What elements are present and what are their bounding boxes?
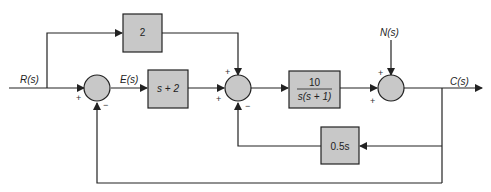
sum3-top-plus-sign: + — [378, 68, 383, 78]
block-controller-label: s + 2 — [157, 83, 179, 94]
sum3-left-plus-sign: + — [370, 96, 375, 106]
summing-junction-1 — [84, 75, 110, 101]
sum1-plus-sign: + — [76, 93, 81, 103]
sum2-left-plus-sign: + — [216, 94, 221, 104]
sum1-minus-sign: − — [103, 100, 108, 110]
summing-junction-3 — [378, 75, 404, 101]
summing-junction-2 — [225, 75, 251, 101]
block-feedforward-label: 2 — [140, 27, 146, 38]
rate-feedback-out-line — [238, 103, 321, 146]
block-rate-feedback-label: 0.5s — [331, 141, 350, 152]
sum2-minus-sign: − — [245, 101, 250, 111]
disturbance-signal-label: N(s) — [380, 27, 399, 38]
error-signal-label: E(s) — [120, 74, 138, 85]
block-plant-denominator: s(s + 1) — [298, 91, 332, 102]
feedforward-line — [47, 33, 122, 88]
block-diagram: 2 s + 2 10 s(s + 1) 0.5s R(s) E(s) N(s) … — [0, 0, 491, 192]
block-plant-numerator: 10 — [309, 77, 321, 88]
input-signal-label: R(s) — [20, 74, 39, 85]
output-signal-label: C(s) — [450, 76, 469, 87]
sum2-top-plus-sign: + — [225, 67, 230, 77]
unity-feedback-line — [97, 103, 442, 183]
